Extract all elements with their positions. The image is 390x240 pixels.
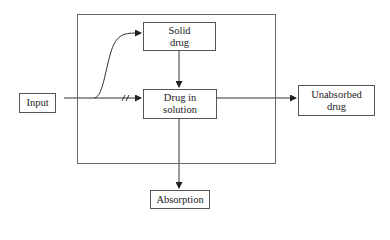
node-input-label: Input: [26, 97, 48, 109]
node-absorption: Absorption: [150, 190, 210, 209]
node-input: Input: [19, 93, 56, 113]
node-absorption-label: Absorption: [156, 194, 203, 206]
node-unabsorbed-drug: Unabsorbed drug: [298, 85, 375, 116]
node-unabsorbed-drug-line1: Unabsorbed: [311, 89, 362, 101]
node-drug-in-solution: Drug in solution: [143, 89, 217, 119]
node-solid-drug-line2: drug: [170, 37, 189, 49]
node-solid-drug: Solid drug: [143, 22, 216, 51]
node-drug-in-solution-line2: solution: [163, 104, 197, 116]
node-solid-drug-line1: Solid: [168, 25, 190, 37]
node-unabsorbed-drug-line2: drug: [327, 101, 346, 113]
node-drug-in-solution-line1: Drug in: [164, 92, 196, 104]
